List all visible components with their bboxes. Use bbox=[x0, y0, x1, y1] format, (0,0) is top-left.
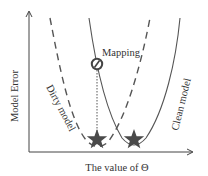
model-error-diagram: Mapping Dirty model Clean model Model Er… bbox=[0, 0, 208, 176]
x-axis-label: The value of Θ bbox=[85, 162, 149, 173]
y-axis-label: Model Error bbox=[9, 69, 20, 122]
mapping-label: Mapping bbox=[102, 47, 141, 58]
dirty-model-curve bbox=[50, 18, 150, 147]
axes bbox=[26, 11, 193, 155]
dirty-model-label: Dirty model bbox=[44, 83, 78, 133]
mapping-circle-icon bbox=[92, 59, 102, 69]
clean-model-label: Clean model bbox=[169, 77, 193, 132]
